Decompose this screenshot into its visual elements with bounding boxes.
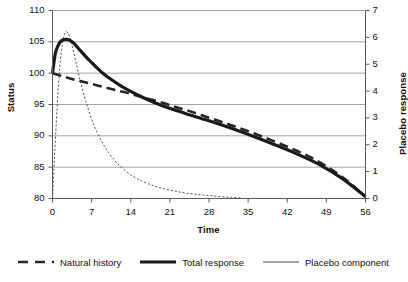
x-tick-label: 49 bbox=[315, 206, 337, 217]
x-tick-label: 7 bbox=[81, 206, 103, 217]
legend-item-total-response[interactable]: Total response bbox=[139, 256, 244, 268]
x-tick-label: 28 bbox=[198, 206, 220, 217]
y-tick-label-left: 90 bbox=[19, 129, 45, 140]
x-axis-title: Time bbox=[52, 224, 365, 235]
chart-legend: Natural historyTotal responsePlacebo com… bbox=[0, 248, 406, 276]
y-axis-title-right: Placebo response bbox=[397, 67, 408, 161]
y-tick-label-left: 100 bbox=[19, 67, 45, 78]
x-tick-label: 0 bbox=[42, 206, 64, 217]
series-line-placebo-component bbox=[53, 32, 243, 199]
legend-label: Placebo component bbox=[305, 257, 389, 268]
legend-swatch-dashed-icon bbox=[17, 256, 55, 268]
y-tick-label-left: 85 bbox=[19, 161, 45, 172]
y-tick-label-right: 5 bbox=[373, 58, 391, 69]
x-tick-label: 14 bbox=[120, 206, 142, 217]
legend-swatch-solid-icon bbox=[139, 256, 177, 268]
x-tick-label: 42 bbox=[276, 206, 298, 217]
y-tick-label-left: 110 bbox=[19, 4, 45, 15]
y-tick-label-left: 95 bbox=[19, 98, 45, 109]
y-tick-label-left: 105 bbox=[19, 35, 45, 46]
tick-marks-group bbox=[49, 11, 370, 203]
y-tick-label-right: 0 bbox=[373, 192, 391, 203]
y-axis-title-left: Status bbox=[5, 68, 16, 128]
y-tick-label-right: 6 bbox=[373, 31, 391, 42]
series-line-natural-history bbox=[53, 73, 366, 196]
legend-label: Total response bbox=[182, 257, 244, 268]
y-tick-label-right: 2 bbox=[373, 138, 391, 149]
data-series-group bbox=[53, 32, 366, 199]
y-tick-label-right: 1 bbox=[373, 165, 391, 176]
x-tick-label: 56 bbox=[355, 206, 377, 217]
y-tick-label-left: 80 bbox=[19, 192, 45, 203]
gridlines-group bbox=[53, 11, 366, 199]
legend-item-natural-history[interactable]: Natural history bbox=[17, 256, 121, 268]
y-tick-label-right: 7 bbox=[373, 4, 391, 15]
y-tick-label-right: 4 bbox=[373, 85, 391, 96]
legend-swatch-dotted-icon bbox=[262, 256, 300, 268]
y-tick-label-right: 3 bbox=[373, 111, 391, 122]
x-tick-label: 21 bbox=[159, 206, 181, 217]
x-tick-label: 35 bbox=[237, 206, 259, 217]
legend-label: Natural history bbox=[60, 257, 121, 268]
legend-item-placebo-component[interactable]: Placebo component bbox=[262, 256, 389, 268]
